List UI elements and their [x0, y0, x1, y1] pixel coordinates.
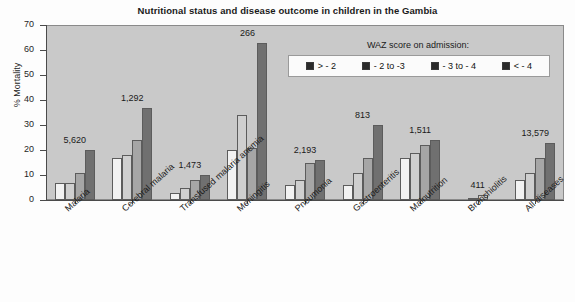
bar-group: [456, 25, 500, 200]
bar: [343, 185, 353, 200]
y-tick-label: 20: [0, 144, 34, 154]
y-tick: [40, 200, 46, 201]
group-count-label: 1,511: [409, 125, 431, 135]
legend-item[interactable]: - 2 to -3: [362, 61, 405, 71]
group-count-label: 1,292: [121, 93, 144, 103]
chart-title: Nutritional status and disease outcome i…: [0, 5, 575, 16]
bar-group: [110, 25, 154, 200]
y-tick-label: 60: [0, 44, 34, 54]
group-count-label: 5,620: [64, 135, 87, 145]
y-tick: [40, 75, 46, 76]
bar: [55, 183, 65, 201]
bar: [257, 43, 267, 201]
legend-label: > - 2: [318, 61, 336, 71]
bar: [515, 180, 525, 200]
bar-group: [398, 25, 442, 200]
bar: [122, 155, 132, 200]
legend-swatch-icon: [362, 62, 370, 70]
y-tick-label: 70: [0, 19, 34, 29]
bar: [285, 185, 295, 200]
legend-swatch-icon: [431, 62, 439, 70]
y-tick: [40, 175, 46, 176]
legend-label: - 3 to - 4: [443, 61, 477, 71]
legend-item[interactable]: < - 4: [502, 61, 532, 71]
group-count-label: 2,193: [294, 145, 317, 155]
legend-label: - 2 to -3: [374, 61, 405, 71]
legend-title: WAZ score on admission:: [288, 40, 548, 50]
group-count-label: 411: [470, 180, 484, 190]
y-tick: [40, 25, 46, 26]
y-tick: [40, 100, 46, 101]
y-axis-line: [46, 25, 47, 200]
bar-group: [283, 25, 327, 200]
legend-item[interactable]: - 3 to - 4: [431, 61, 477, 71]
y-tick-label: 30: [0, 119, 34, 129]
y-tick-label: 50: [0, 69, 34, 79]
y-tick-label: 10: [0, 169, 34, 179]
legend-label: < - 4: [514, 61, 532, 71]
bar: [112, 158, 122, 201]
bar-group: [513, 25, 557, 200]
legend-item[interactable]: > - 2: [306, 61, 336, 71]
legend-swatch-icon: [306, 62, 314, 70]
bar: [400, 158, 410, 201]
chart-figure: Nutritional status and disease outcome i…: [0, 0, 575, 302]
bar: [170, 193, 180, 201]
bar-group: [168, 25, 212, 200]
group-count-label: 1,473: [179, 160, 202, 170]
y-tick: [40, 150, 46, 151]
legend-swatch-icon: [502, 62, 510, 70]
legend-box: > - 2- 2 to -3- 3 to - 4< - 4: [288, 55, 550, 77]
group-count-label: 813: [355, 110, 370, 120]
group-count-label: 266: [240, 28, 255, 38]
y-tick-label: 0: [0, 194, 34, 204]
bar: [410, 153, 420, 201]
y-tick-label: 40: [0, 94, 34, 104]
bar-group: [225, 25, 269, 200]
y-tick: [40, 50, 46, 51]
group-count-label: 13,579: [521, 128, 549, 138]
y-tick: [40, 125, 46, 126]
bar-group: [53, 25, 97, 200]
